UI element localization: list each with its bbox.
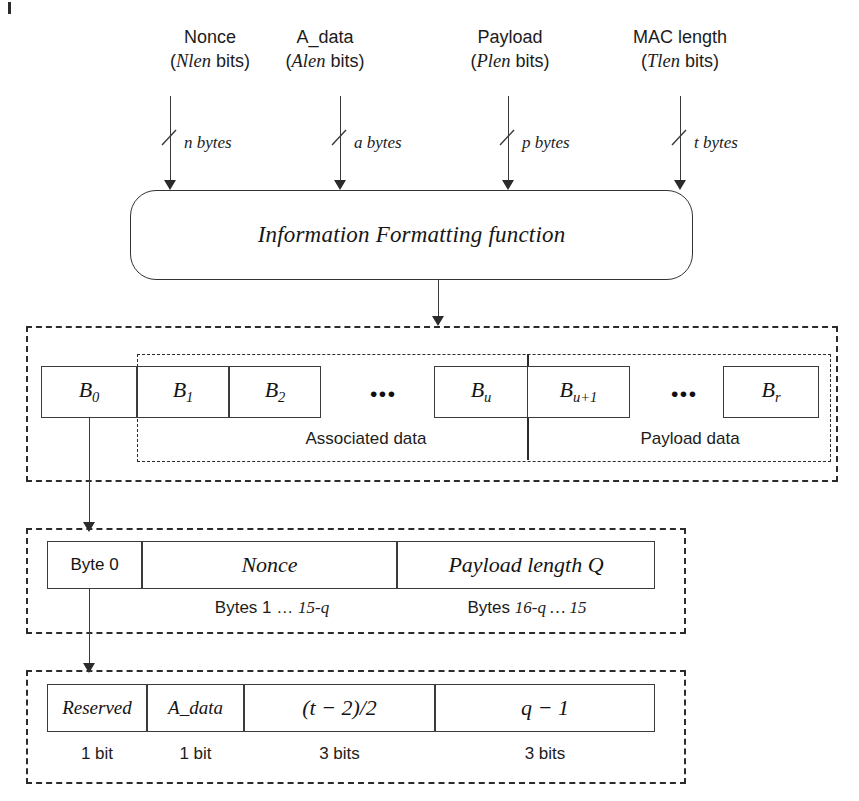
associated-data-label: Associated data bbox=[261, 429, 471, 449]
b0-to-b0-expansion-line bbox=[89, 418, 90, 528]
input-label-line1: MAC length bbox=[605, 26, 755, 49]
bitfield-mac-length: (t − 2)/2 bbox=[244, 684, 435, 732]
input-arrowhead-nonce bbox=[164, 180, 176, 190]
block-B1: B1 bbox=[137, 366, 229, 418]
block-Br: Br bbox=[723, 366, 819, 418]
block-B0: B0 bbox=[41, 366, 137, 418]
bitfield-q-minus-1: q − 1 bbox=[435, 684, 655, 732]
slash-tick-icon bbox=[499, 129, 517, 147]
input-arrowhead-mac-length bbox=[674, 180, 686, 190]
bitfield-reserved: Reserved bbox=[47, 684, 147, 732]
input-label-line1: Payload bbox=[440, 26, 580, 49]
block-subscript: r bbox=[775, 390, 781, 406]
bitfield-label: A_data bbox=[168, 697, 223, 719]
figure-canvas: Nonce (Nlen bits) A_data (Alen bits) Pay… bbox=[0, 0, 859, 801]
block-Bu1: Bu+1 bbox=[527, 366, 630, 418]
field-label: Payload length Q bbox=[448, 552, 603, 578]
input-param-suffix: bits) bbox=[680, 51, 719, 71]
input-size-label-mac-length: t bytes bbox=[694, 133, 738, 153]
block-subscript: 2 bbox=[278, 390, 285, 406]
input-size-label-payload: p bytes bbox=[522, 133, 570, 153]
input-param-suffix: bits) bbox=[211, 51, 250, 71]
block-subscript: u+1 bbox=[573, 390, 597, 406]
caption-q-bytes: Bytes 16-q … 15 bbox=[427, 598, 627, 618]
field-nonce: Nonce bbox=[142, 541, 397, 589]
bits-label-reserved: 1 bit bbox=[47, 744, 147, 764]
page-edge-mark bbox=[8, 2, 11, 14]
block-label: B2 bbox=[265, 377, 286, 406]
input-label-line1: A_data bbox=[255, 26, 395, 49]
bits-label-q-minus-1: 3 bits bbox=[435, 744, 655, 764]
blocks-ellipsis-left: ••• bbox=[370, 383, 397, 404]
blocks-ellipsis-right: ••• bbox=[671, 383, 698, 404]
block-subscript: u bbox=[484, 390, 491, 406]
input-size-label-nonce: n bytes bbox=[184, 133, 232, 153]
block-Bu: Bu bbox=[434, 366, 528, 418]
caption-nonce-bytes: Bytes 1 … 15-q bbox=[172, 598, 372, 618]
bitfield-label: Reserved bbox=[62, 697, 132, 719]
input-arrowhead-payload bbox=[502, 180, 514, 190]
input-param-suffix: bits) bbox=[510, 51, 549, 71]
input-param: Plen bbox=[477, 51, 511, 71]
input-param-suffix: bits) bbox=[325, 51, 364, 71]
caption-prefix: Bytes bbox=[467, 598, 514, 617]
bitfield-a-data: A_data bbox=[147, 684, 244, 732]
function-box-label: Information Formatting function bbox=[258, 222, 566, 248]
caption-prefix: Bytes 1 … bbox=[215, 598, 298, 617]
block-subscript: 0 bbox=[92, 390, 99, 406]
block-label: B0 bbox=[79, 377, 100, 406]
block-label: B1 bbox=[173, 377, 194, 406]
input-heading-payload: Payload (Plen bits) bbox=[440, 26, 580, 74]
input-param: Alen bbox=[292, 51, 326, 71]
information-formatting-function-box: Information Formatting function bbox=[130, 190, 693, 280]
block-label: Br bbox=[761, 377, 780, 406]
input-arrowhead-a-data bbox=[334, 180, 346, 190]
input-size-label-a-data: a bytes bbox=[354, 133, 402, 153]
input-param: Nlen bbox=[176, 51, 211, 71]
input-heading-mac-length: MAC length (Tlen bits) bbox=[605, 26, 755, 74]
bits-label-mac-length: 3 bits bbox=[244, 744, 435, 764]
bitfield-label: q − 1 bbox=[521, 695, 569, 721]
block-label: Bu bbox=[471, 377, 492, 406]
input-heading-a-data: A_data (Alen bits) bbox=[255, 26, 395, 74]
payload-data-label: Payload data bbox=[600, 429, 780, 449]
slash-tick-icon bbox=[161, 129, 179, 147]
slash-tick-icon bbox=[331, 129, 349, 147]
input-label-line2: (Alen bits) bbox=[255, 49, 395, 73]
field-label: Byte 0 bbox=[70, 555, 118, 575]
block-label: Bu+1 bbox=[560, 377, 598, 406]
field-payload-length-q: Payload length Q bbox=[397, 541, 655, 589]
slash-tick-icon bbox=[671, 129, 689, 147]
input-param: Tlen bbox=[647, 51, 680, 71]
bitfield-label: (t − 2)/2 bbox=[302, 695, 377, 721]
byte0-to-bitfield-line bbox=[89, 589, 90, 671]
input-label-line2: (Tlen bits) bbox=[605, 49, 755, 73]
function-output-arrowhead bbox=[432, 316, 444, 326]
caption-emphasis: 15-q bbox=[298, 598, 329, 617]
field-byte0: Byte 0 bbox=[47, 541, 142, 589]
block-subscript: 1 bbox=[186, 390, 193, 406]
input-label-line2: (Plen bits) bbox=[440, 49, 580, 73]
caption-emphasis: 16-q … 15 bbox=[515, 598, 587, 617]
field-label: Nonce bbox=[241, 552, 297, 578]
bits-label-a-data: 1 bit bbox=[147, 744, 244, 764]
block-B2: B2 bbox=[229, 366, 321, 418]
